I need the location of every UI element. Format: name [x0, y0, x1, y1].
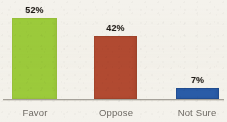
x-axis-label-favor: Favor: [8, 107, 62, 118]
x-axis-label-oppose: Oppose: [88, 107, 144, 118]
bar-value-not-sure: 7%: [191, 75, 204, 85]
bar-chart: 52% 42% 7% Favor Oppose Not Sure: [0, 0, 227, 122]
bar-group-oppose: 42%: [94, 36, 137, 99]
bar-oppose[interactable]: [94, 36, 137, 99]
bar-group-favor: 52%: [12, 18, 57, 99]
bar-value-oppose: 42%: [106, 23, 124, 33]
plot-area: 52% 42% 7% Favor Oppose Not Sure: [0, 0, 227, 122]
bar-value-favor: 52%: [25, 5, 43, 15]
bar-not-sure[interactable]: [176, 88, 219, 99]
bar-favor[interactable]: [12, 18, 57, 99]
bar-group-not-sure: 7%: [176, 88, 219, 99]
x-axis-line: [3, 99, 224, 100]
x-axis-label-not-sure: Not Sure: [168, 107, 226, 118]
